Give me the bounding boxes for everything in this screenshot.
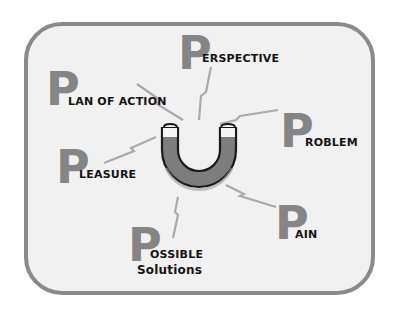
- bolt-solutions: [173, 197, 178, 238]
- big-letter: P: [56, 144, 88, 190]
- bolt-pleasure: [104, 137, 156, 163]
- node-label-line2: Solutions: [137, 264, 202, 277]
- node-label: leasure: [79, 168, 136, 181]
- bolt-pain: [226, 185, 276, 207]
- bolt-problem: [220, 110, 278, 124]
- node-label: erspective: [202, 52, 279, 65]
- node-label: lan of Action: [68, 95, 167, 108]
- node-label: ain: [295, 228, 317, 241]
- big-letter: P: [128, 222, 160, 268]
- node-label: roblem: [305, 136, 358, 149]
- node-label-line1: ossible: [150, 248, 203, 261]
- magnet-icon: [162, 124, 236, 190]
